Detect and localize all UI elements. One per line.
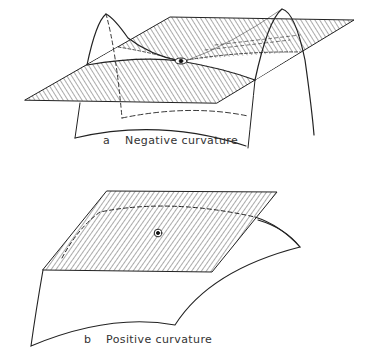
caption-a-text: Negative curvature — [125, 134, 238, 147]
saddle-surface-diagram — [25, 9, 354, 148]
caption-a-letter: a — [103, 134, 125, 147]
dome-surface-diagram — [31, 191, 300, 346]
curvature-diagram — [0, 0, 374, 354]
caption-b-letter: b — [84, 333, 106, 346]
caption-a: aNegative curvature — [103, 134, 238, 147]
caption-b: bPositive curvature — [84, 333, 212, 346]
dome-point-marker — [154, 229, 162, 237]
surface-left-edge — [75, 103, 80, 138]
caption-b-text: Positive curvature — [106, 333, 212, 346]
saddle-point-marker — [175, 58, 187, 64]
surface-back-edge — [122, 110, 248, 118]
